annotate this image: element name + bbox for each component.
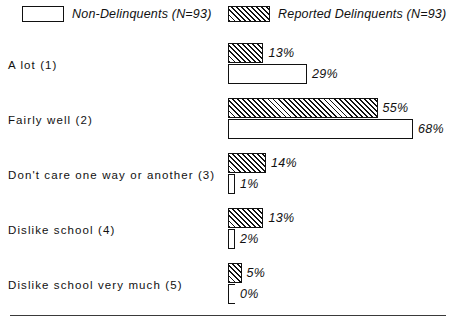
chart-legend: Non-Delinquents (N=93) Reported Delinque… xyxy=(0,6,456,32)
bar-reported-delinquents xyxy=(228,263,242,283)
bar-value-label: 13% xyxy=(268,46,294,60)
bar-value-label: 55% xyxy=(383,101,409,115)
legend-label-non-delinquents: Non-Delinquents (N=93) xyxy=(72,7,212,21)
bar-pair: 5% 0% xyxy=(228,262,265,304)
bar-non-delinquents xyxy=(228,284,235,304)
bar-row-non-delinquents: 2% xyxy=(228,228,294,249)
bar-row-non-delinquents: 68% xyxy=(228,118,444,139)
bar-value-label: 68% xyxy=(418,122,444,136)
bar-reported-delinquents xyxy=(228,208,263,228)
bar-row-reported-delinquents: 13% xyxy=(228,207,294,228)
bar-value-label: 13% xyxy=(268,211,294,225)
bar-non-delinquents xyxy=(228,229,235,249)
legend-label-reported-delinquents: Reported Delinquents (N=93) xyxy=(278,7,446,21)
category-label: Fairly well (2) xyxy=(8,114,93,126)
bar-reported-delinquents xyxy=(228,43,263,63)
legend-swatch-non-delinquents xyxy=(22,6,64,22)
bar-row-reported-delinquents: 14% xyxy=(228,152,297,173)
bar-pair: 13% 29% xyxy=(228,42,338,84)
category-label: A lot (1) xyxy=(8,59,58,71)
bar-value-label: 2% xyxy=(240,232,259,246)
bar-reported-delinquents xyxy=(228,153,266,173)
bar-chart: Non-Delinquents (N=93) Reported Delinque… xyxy=(0,0,456,329)
bar-value-label: 5% xyxy=(247,266,266,280)
bar-group-dislike-school: Dislike school (4) 13% 2% xyxy=(0,205,456,255)
bar-row-non-delinquents: 29% xyxy=(228,63,338,84)
bar-group-dislike-very-much: Dislike school very much (5) 5% 0% xyxy=(0,260,456,310)
bar-group-a-lot: A lot (1) 13% 29% xyxy=(0,40,456,90)
bar-row-reported-delinquents: 13% xyxy=(228,42,338,63)
bar-non-delinquents xyxy=(228,174,235,194)
bottom-rule xyxy=(10,315,446,316)
bar-value-label: 14% xyxy=(271,156,297,170)
bar-row-reported-delinquents: 5% xyxy=(228,262,265,283)
bar-value-label: 1% xyxy=(240,177,259,191)
legend-swatch-reported-delinquents xyxy=(228,6,270,22)
bar-value-label: 0% xyxy=(240,287,259,301)
bar-non-delinquents xyxy=(228,119,413,139)
legend-item-reported-delinquents: Reported Delinquents (N=93) xyxy=(228,6,446,22)
bar-pair: 13% 2% xyxy=(228,207,294,249)
bar-non-delinquents xyxy=(228,64,307,84)
bar-row-non-delinquents: 1% xyxy=(228,173,297,194)
bar-group-fairly-well: Fairly well (2) 55% 68% xyxy=(0,95,456,145)
bar-value-label: 29% xyxy=(312,67,338,81)
category-label: Don't care one way or another (3) xyxy=(8,169,215,181)
legend-item-non-delinquents: Non-Delinquents (N=93) xyxy=(22,6,212,22)
bar-group-dont-care: Don't care one way or another (3) 14% 1% xyxy=(0,150,456,200)
category-label: Dislike school (4) xyxy=(8,224,115,236)
bar-row-non-delinquents: 0% xyxy=(228,283,265,304)
bar-reported-delinquents xyxy=(228,98,378,118)
category-label: Dislike school very much (5) xyxy=(8,279,183,291)
bar-pair: 14% 1% xyxy=(228,152,297,194)
bar-row-reported-delinquents: 55% xyxy=(228,97,444,118)
bar-pair: 55% 68% xyxy=(228,97,444,139)
